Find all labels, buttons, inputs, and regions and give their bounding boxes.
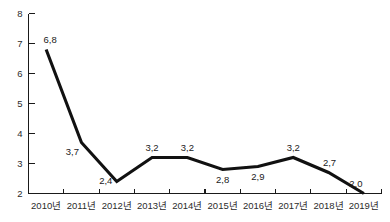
y-tick-label: 4: [17, 128, 22, 139]
y-tick-label: 8: [17, 8, 22, 19]
x-tick-label: 2015년: [208, 200, 238, 211]
data-point-label: 6,8: [44, 34, 57, 45]
line-chart: 2345678 2010년2011년2012년2013년2014년2015년20…: [0, 0, 390, 222]
x-tick-label: 2016년: [243, 200, 273, 211]
y-axis-labels: 2345678: [17, 8, 22, 199]
data-point-label: 3,2: [287, 142, 300, 153]
y-tick-label: 2: [17, 188, 22, 199]
data-point-label: 2,7: [323, 157, 336, 168]
data-point-label: 3,2: [145, 142, 158, 153]
x-axis-labels: 2010년2011년2012년2013년2014년2015년2016년2017년…: [31, 200, 379, 211]
x-tick-label: 2018년: [313, 200, 343, 211]
data-point-label: 2,4: [99, 175, 112, 186]
data-point-label: 2,8: [216, 174, 229, 185]
y-tick-label: 3: [17, 158, 22, 169]
x-tick-label: 2010년: [31, 200, 61, 211]
y-tick-label: 5: [17, 98, 22, 109]
x-tick-label: 2014년: [172, 200, 202, 211]
y-tick-label: 6: [17, 68, 22, 79]
y-axis-ticks: [29, 14, 35, 194]
x-axis-ticks: [29, 189, 382, 194]
x-tick-label: 2017년: [278, 200, 308, 211]
data-series-line: [46, 50, 364, 194]
x-tick-label: 2019년: [349, 200, 379, 211]
chart-plot-area: 2345678 2010년2011년2012년2013년2014년2015년20…: [0, 0, 390, 222]
x-tick-label: 2012년: [102, 200, 132, 211]
data-point-label: 3,2: [181, 142, 194, 153]
y-tick-label: 7: [17, 38, 22, 49]
data-point-label: 2,0: [349, 178, 362, 189]
x-tick-label: 2011년: [67, 200, 96, 211]
data-point-label: 3,7: [66, 146, 79, 157]
x-tick-label: 2013년: [137, 200, 167, 211]
data-point-label: 2,9: [251, 171, 264, 182]
